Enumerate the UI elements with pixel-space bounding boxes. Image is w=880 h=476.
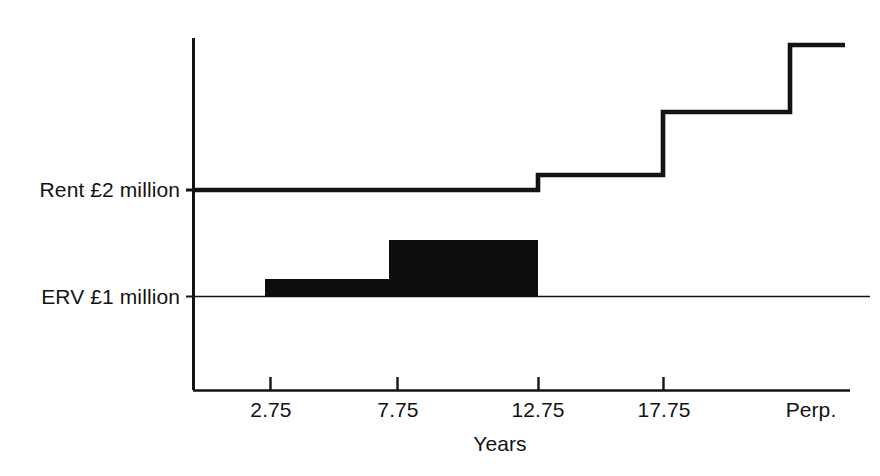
x-tick-label-7-75: 7.75 [352,398,444,422]
x-tick-label-17-75: 17.75 [618,398,710,422]
x-tick-label-2-75: 2.75 [225,398,317,422]
x-axis-title: Years [440,432,560,456]
chart-figure: Rent £2 million ERV £1 million 2.75 7.75… [0,0,880,476]
erv-line-label: ERV £1 million [0,285,188,309]
x-tick-label-12-75: 12.75 [492,398,584,422]
x-tick-label-perp: Perp. [765,398,857,422]
rent-line-label: Rent £2 million [0,178,188,202]
